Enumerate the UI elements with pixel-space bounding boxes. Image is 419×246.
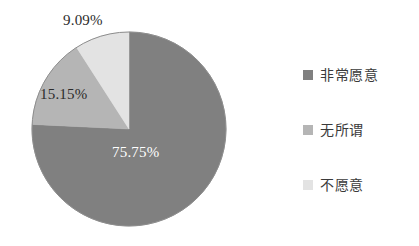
legend-label-indifferent: 无所谓: [320, 123, 364, 137]
legend-swatch-icon-indifferent: [303, 125, 313, 135]
chart-legend: 非常愿意 无所谓 不愿意: [303, 57, 415, 197]
legend-swatch-icon-very-willing: [303, 70, 313, 80]
pie-slice-label-very-willing: 75.75%: [112, 145, 159, 160]
pie-chart-figure: 75.75% 15.15% 9.09% 非常愿意 无所谓 不愿意: [0, 0, 419, 246]
pie-slice-label-indifferent: 15.15%: [40, 87, 87, 102]
legend-item-unwilling[interactable]: 不愿意: [303, 175, 364, 195]
legend-item-very-willing[interactable]: 非常愿意: [303, 65, 378, 85]
legend-label-very-willing: 非常愿意: [320, 68, 378, 82]
legend-item-indifferent[interactable]: 无所谓: [303, 120, 364, 140]
legend-label-unwilling: 不愿意: [320, 178, 364, 192]
legend-swatch-icon-unwilling: [303, 180, 313, 190]
pie-slices: [32, 32, 226, 226]
pie-slice-label-unwilling: 9.09%: [63, 13, 103, 28]
pie-plot-area: 75.75% 15.15% 9.09%: [0, 0, 265, 246]
pie-svg: [0, 0, 265, 246]
